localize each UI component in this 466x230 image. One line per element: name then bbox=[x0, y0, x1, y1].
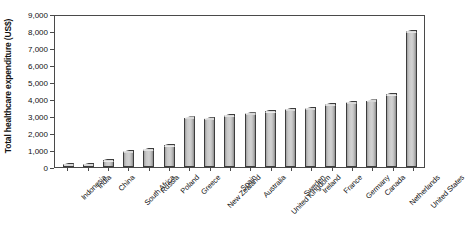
bar bbox=[123, 153, 134, 167]
bar-slot bbox=[179, 16, 199, 167]
x-axis-tick-labels: IndonesiaIndiaChinaSouth AfricaRussiaPol… bbox=[54, 169, 425, 230]
bar-slot bbox=[301, 16, 321, 167]
x-axis-tick-mark bbox=[128, 168, 129, 171]
y-axis-tick-labels: 9,0008,0007,0006,0005,0004,0003,0002,000… bbox=[16, 15, 54, 168]
bar-top-bevel bbox=[386, 93, 397, 96]
bar-top-bevel bbox=[245, 112, 256, 115]
bar-slot bbox=[78, 16, 98, 167]
bar bbox=[83, 166, 94, 167]
bar-slot bbox=[220, 16, 240, 167]
y-axis-tick: 9,000 bbox=[28, 10, 54, 20]
x-axis-tick-mark bbox=[393, 168, 394, 171]
x-axis-tick-mark bbox=[372, 168, 373, 171]
bar-top-bevel bbox=[143, 148, 154, 151]
bar-slot bbox=[341, 16, 361, 167]
x-axis-tick-mark bbox=[332, 168, 333, 171]
bar-top-bevel bbox=[285, 108, 296, 111]
bar-top-bevel bbox=[406, 30, 417, 33]
bar bbox=[305, 110, 316, 167]
bar bbox=[63, 166, 74, 167]
y-axis-tick: 2,000 bbox=[28, 129, 54, 139]
x-axis-tick-mark bbox=[189, 168, 190, 171]
y-axis-tick: 6,000 bbox=[28, 61, 54, 71]
bar-top-bevel bbox=[204, 117, 215, 120]
bar-slot bbox=[240, 16, 260, 167]
bar bbox=[204, 120, 215, 167]
x-axis-tick-mark bbox=[108, 168, 109, 171]
x-axis-tick-mark bbox=[230, 168, 231, 171]
y-axis-tick-label: 6,000 bbox=[28, 62, 48, 71]
bar-slot bbox=[280, 16, 300, 167]
y-axis-tick-label: 0 bbox=[44, 164, 48, 173]
x-axis-tick-label: Russia bbox=[158, 173, 180, 195]
bar-top-bevel bbox=[346, 101, 357, 104]
bar bbox=[285, 111, 296, 167]
y-axis-tick-label: 8,000 bbox=[28, 28, 48, 37]
x-axis-tick-mark bbox=[88, 168, 89, 171]
x-axis-tick-mark bbox=[210, 168, 211, 171]
y-axis-tick: 5,000 bbox=[28, 78, 54, 88]
x-axis-tick-mark bbox=[149, 168, 150, 171]
bar bbox=[366, 102, 377, 167]
y-axis-tick-label: 2,000 bbox=[28, 130, 48, 139]
bar-slot bbox=[98, 16, 118, 167]
y-axis-tick: 0 bbox=[44, 163, 54, 173]
bar-slot bbox=[361, 16, 381, 167]
y-axis-tick-label: 1,000 bbox=[28, 147, 48, 156]
x-axis-tick-label: Australia bbox=[261, 173, 287, 199]
bar bbox=[164, 147, 175, 167]
x-axis-tick-mark bbox=[271, 168, 272, 171]
x-axis-tick-label: France bbox=[341, 173, 363, 195]
bar bbox=[245, 115, 256, 167]
bar-top-bevel bbox=[265, 110, 276, 113]
y-axis-title-text: Total healthcare expenditure (US$) bbox=[3, 19, 13, 154]
x-axis-tick-mark bbox=[250, 168, 251, 171]
bar-top-bevel bbox=[83, 163, 94, 166]
y-axis-tick: 8,000 bbox=[28, 27, 54, 37]
bar-slot bbox=[321, 16, 341, 167]
bar-top-bevel bbox=[224, 114, 235, 117]
x-axis-tick-mark bbox=[67, 168, 68, 171]
bar bbox=[224, 117, 235, 167]
bar-slot bbox=[58, 16, 78, 167]
x-axis-tick-mark bbox=[169, 168, 170, 171]
bar-slot bbox=[119, 16, 139, 167]
y-axis-tick-label: 9,000 bbox=[28, 11, 48, 20]
bar bbox=[325, 106, 336, 167]
y-axis-tick-label: 7,000 bbox=[28, 45, 48, 54]
bar-top-bevel bbox=[63, 163, 74, 166]
bar bbox=[406, 33, 417, 167]
x-axis-tick-mark bbox=[413, 168, 414, 171]
y-axis-tick-label: 5,000 bbox=[28, 79, 48, 88]
bar-top-bevel bbox=[164, 144, 175, 147]
x-axis-tick-label: Poland bbox=[178, 173, 200, 195]
y-axis-tick: 4,000 bbox=[28, 95, 54, 105]
x-axis-tick-mark bbox=[352, 168, 353, 171]
bar-slot bbox=[402, 16, 422, 167]
bar-top-bevel bbox=[325, 103, 336, 106]
bar-slot bbox=[159, 16, 179, 167]
y-axis-tick-label: 3,000 bbox=[28, 113, 48, 122]
y-axis-tick: 3,000 bbox=[28, 112, 54, 122]
bar-top-bevel bbox=[366, 99, 377, 102]
bar bbox=[184, 119, 195, 167]
bar-slot bbox=[260, 16, 280, 167]
y-axis-tick: 1,000 bbox=[28, 146, 54, 156]
bar bbox=[386, 96, 397, 167]
bar-slot bbox=[200, 16, 220, 167]
x-axis-tick-label: Greece bbox=[199, 173, 222, 196]
bar-slot bbox=[382, 16, 402, 167]
x-axis-tick-mark bbox=[291, 168, 292, 171]
y-axis-title: Total healthcare expenditure (US$) bbox=[0, 0, 16, 172]
x-axis-tick-mark bbox=[311, 168, 312, 171]
y-axis-tick-label: 4,000 bbox=[28, 96, 48, 105]
bar bbox=[346, 104, 357, 167]
bar bbox=[103, 162, 114, 167]
bar-top-bevel bbox=[103, 159, 114, 162]
plot-area bbox=[54, 15, 425, 168]
y-axis-tick: 7,000 bbox=[28, 44, 54, 54]
bars-layer bbox=[55, 16, 424, 167]
x-axis-tick-label: China bbox=[116, 173, 136, 193]
bar-slot bbox=[139, 16, 159, 167]
bar bbox=[143, 151, 154, 167]
